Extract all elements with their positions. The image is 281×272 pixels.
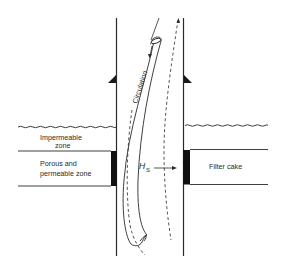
porous-zone-label-line2: permeable zone <box>40 169 92 178</box>
hs-label-subscript: S <box>146 167 150 173</box>
filter-cake-label: Filter cake <box>209 162 242 171</box>
hs-label: H <box>139 161 146 171</box>
impermeable-top-boundary-left <box>18 126 116 128</box>
flow-arrow-up-icon <box>177 18 181 23</box>
filter-cake-left <box>111 151 117 186</box>
impermeable-top-boundary-right <box>185 125 268 127</box>
porous-zone-label-line1: Porous and <box>40 159 77 168</box>
filter-cake-right <box>183 150 190 185</box>
diagram-canvas: Circulation H S Impermeable zone Porous … <box>0 0 281 272</box>
impermeable-zone-label-line2: zone <box>55 141 71 150</box>
wall-marker-left-icon <box>108 75 116 83</box>
wellbore-diagram: Circulation H S Impermeable zone Porous … <box>0 0 281 272</box>
wall-marker-right-icon <box>184 75 192 83</box>
flow-line-annulus <box>164 20 178 240</box>
hs-arrow-right-icon <box>172 166 177 170</box>
